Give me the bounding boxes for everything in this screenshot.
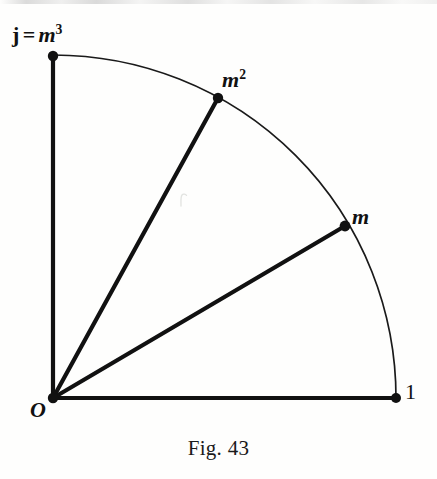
label-j-symbol: j [12,22,20,47]
label-m-base-cubed: m [38,22,55,47]
quarter-circle-diagram [0,0,437,479]
label-unit-one: 1 [405,381,416,403]
point-marker-origin [48,393,58,403]
radius-line-m2 [53,98,218,398]
point-marker-m [340,221,351,232]
label-equals-sign: = [20,22,39,47]
label-j-equals-m-cubed: j=m3 [12,23,62,46]
label-origin: O [30,399,46,421]
label-m: m [352,206,369,228]
label-m-base-squared: m [222,67,239,92]
label-exponent-two: 2 [239,67,246,82]
label-m-squared: m2 [222,68,246,91]
point-marker-m3 [48,51,58,61]
radius-line-m [53,226,345,398]
point-marker-m2 [213,93,223,103]
label-exponent-three: 3 [56,22,63,37]
point-marker-one [391,393,401,403]
figure-43-container: j=m3 m2 m O 1 Fig. 43 [0,0,437,479]
figure-caption: Fig. 43 [0,436,437,461]
